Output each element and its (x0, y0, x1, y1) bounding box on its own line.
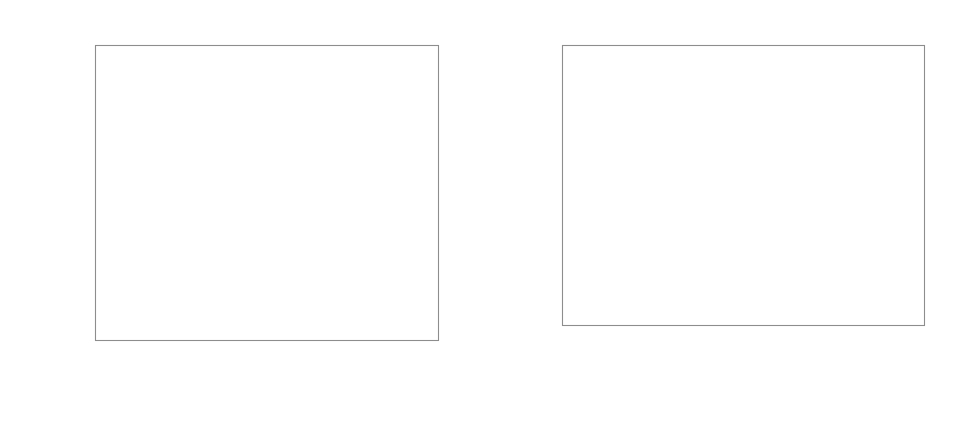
two-panel-residual-figure (0, 0, 965, 445)
panel-b (0, 0, 925, 326)
panel-a-plot-frame (96, 46, 439, 341)
panel-a (0, 0, 439, 341)
figure-container (0, 0, 965, 445)
panel-b-plot-frame (563, 46, 925, 326)
